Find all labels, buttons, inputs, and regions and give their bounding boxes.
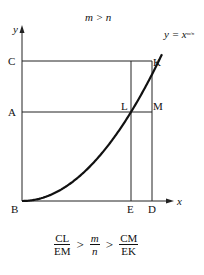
point-C: C: [8, 55, 15, 67]
y-axis-label: y: [12, 23, 18, 35]
greater-than-1: >: [77, 237, 84, 253]
x-axis-label: x: [176, 195, 182, 207]
fraction-CM-EK: CM EK: [119, 232, 138, 257]
point-E: E: [127, 203, 134, 215]
point-B: B: [11, 203, 18, 215]
curve: [22, 54, 162, 201]
inequality-formula: CL EM > m n > CM EK: [52, 232, 140, 257]
point-L: L: [121, 100, 128, 112]
point-K: K: [153, 56, 161, 68]
point-A: A: [8, 106, 16, 118]
x-axis-arrow: [166, 199, 174, 204]
fraction-CL-EM: CL EM: [54, 232, 71, 257]
point-D: D: [148, 203, 156, 215]
curve-label: y = xm/n: [163, 28, 195, 40]
point-M: M: [153, 100, 163, 112]
y-axis-arrow: [20, 25, 25, 33]
title: m > n: [85, 11, 112, 23]
fraction-m-n: m n: [90, 232, 100, 257]
greater-than-2: >: [106, 237, 113, 253]
